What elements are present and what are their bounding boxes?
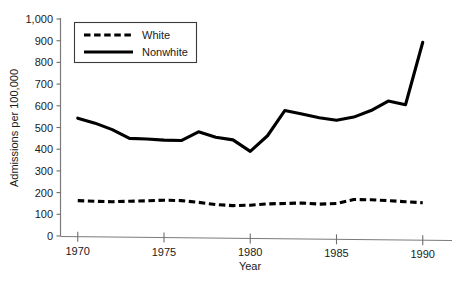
y-tick-label: 700 — [35, 78, 53, 90]
legend-label-nonwhite: Nonwhite — [142, 46, 188, 58]
line-chart: 01002003004005006007008009001,000 197019… — [0, 0, 462, 283]
x-axis-tick-labels: 19701975198019851990 — [66, 245, 435, 261]
series-line-white — [78, 200, 423, 206]
y-tick-label: 100 — [35, 208, 53, 220]
y-tick-label: 500 — [35, 122, 53, 134]
y-tick-label: 0 — [47, 230, 53, 242]
x-axis-title: Year — [239, 260, 262, 272]
chart-legend: White Nonwhite — [75, 23, 197, 63]
y-axis-title: Admissions per 100,000 — [8, 69, 20, 187]
series-group — [78, 42, 423, 205]
y-axis-tick-labels: 01002003004005006007008009001,000 — [25, 13, 53, 242]
legend-label-white: White — [142, 29, 170, 41]
x-axis-line — [61, 237, 453, 241]
x-tick-label: 1975 — [152, 246, 176, 258]
y-tick-label: 600 — [35, 100, 53, 112]
y-tick-label: 800 — [35, 56, 53, 68]
x-tick-label: 1985 — [324, 247, 348, 259]
y-tick-label: 200 — [35, 187, 53, 199]
y-tick-label: 400 — [35, 143, 53, 155]
x-tick-label: 1990 — [411, 248, 435, 260]
x-tick-label: 1980 — [238, 246, 262, 258]
y-tick-label: 300 — [35, 165, 53, 177]
y-tick-label: 900 — [35, 35, 53, 47]
y-tick-label: 1,000 — [25, 13, 53, 25]
x-tick-label: 1970 — [66, 245, 90, 257]
x-axis-ticks — [78, 232, 423, 246]
chart-canvas: 01002003004005006007008009001,000 197019… — [0, 0, 462, 283]
